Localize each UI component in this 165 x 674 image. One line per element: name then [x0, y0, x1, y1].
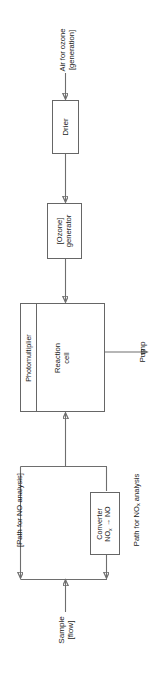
label-air-for-ozone: Air for ozone [generation]: [28, 10, 108, 90]
node-photomultiplier-label: Photomultiplier: [24, 334, 32, 382]
node-drier-label: Drier: [61, 118, 70, 136]
air-line-1: Air for ozone: [58, 28, 67, 71]
path-nox-text: Path for NOx analysis: [133, 474, 142, 546]
sample-line-2: [flow]: [66, 621, 75, 640]
node-ozone-generator: [Ozone] generator: [47, 203, 82, 259]
air-line-2: [generation]: [67, 30, 76, 70]
node-ozone-generator-label: [Ozone] generator: [56, 215, 73, 248]
sample-line-1: Sample: [57, 616, 66, 643]
path-nox-post: analysis: [132, 474, 141, 504]
flow-diagram: Drier [Ozone] generator Reaction cell Ph…: [0, 0, 165, 674]
label-sample-flow: Sample [flow]: [26, 600, 106, 660]
node-photomultiplier: Photomultiplier: [20, 303, 37, 412]
label-path-for-no-analysis: [Path for NO analysis]: [0, 470, 60, 550]
path-no-text: [Path for NO analysis]: [16, 473, 25, 547]
reaction-line-1: Reaction: [53, 343, 62, 373]
label-path-for-nox-analysis: Path for NOx analysis: [97, 470, 165, 550]
pump-text: Pump: [138, 341, 147, 362]
path-nox-sub: x: [135, 503, 141, 506]
node-drier: Drier: [52, 100, 79, 154]
node-reaction-cell-label: Reaction cell: [54, 343, 71, 373]
label-pump: Pump: [121, 330, 165, 374]
ozone-line-2: generator: [64, 215, 73, 248]
reaction-line-2: cell: [62, 352, 71, 363]
path-nox-pre: Path for NO: [132, 506, 141, 546]
ozone-line-1: [Ozone]: [55, 218, 64, 245]
